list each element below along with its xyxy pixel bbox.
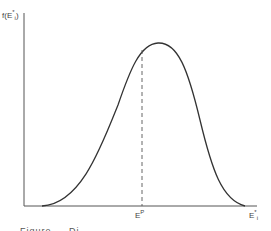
figure-caption: Figure ... Di... <box>20 226 90 231</box>
x-axis-label: E*i <box>249 209 258 221</box>
density-plot <box>0 0 271 231</box>
y-axis-label: f(E*i) <box>2 9 19 21</box>
density-curve <box>42 43 245 206</box>
x-tick-ep: EP <box>135 209 144 220</box>
